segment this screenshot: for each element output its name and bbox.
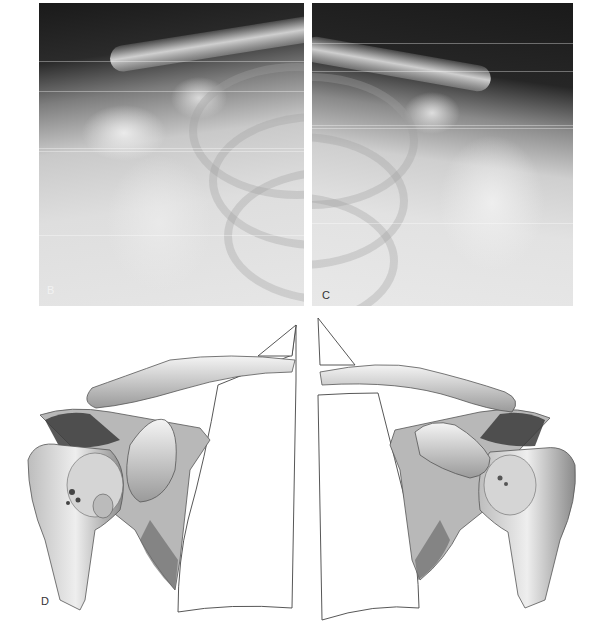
anatomical-illustration-panel-d xyxy=(0,310,590,629)
humerus-right xyxy=(479,448,576,608)
humerus-left xyxy=(28,444,123,610)
radiograph-panel-c: C xyxy=(312,3,573,306)
radiograph-panel-b: B xyxy=(39,3,304,306)
panel-label-d: D xyxy=(41,595,49,607)
panel-label-c: C xyxy=(322,289,330,301)
panel-label-b: B xyxy=(47,284,54,296)
